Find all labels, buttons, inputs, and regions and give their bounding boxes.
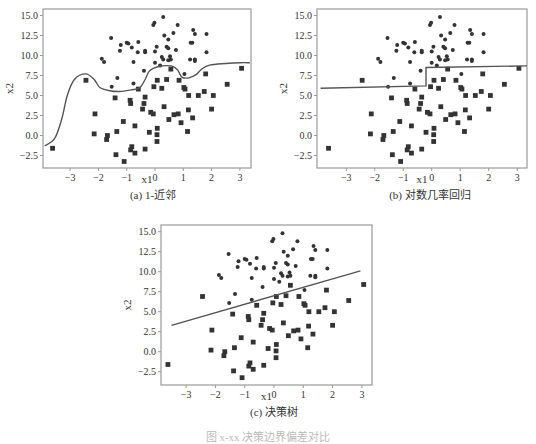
data-point-square: [114, 129, 119, 134]
y-tick-label: 2.5: [144, 326, 157, 337]
data-point-circle: [482, 32, 486, 36]
data-point-circle: [468, 28, 472, 32]
data-point-square: [389, 96, 394, 101]
y-tick-label: −2.5: [138, 366, 156, 377]
data-point-square: [166, 362, 171, 367]
data-point-circle: [143, 50, 147, 54]
data-point-square: [405, 101, 410, 106]
data-point-circle: [162, 34, 166, 38]
data-point-circle: [420, 50, 424, 54]
x-tick-label: 2: [486, 172, 491, 183]
data-point-square: [296, 328, 301, 333]
data-point-circle: [312, 244, 316, 248]
data-point-square: [368, 132, 373, 137]
data-point-square: [155, 78, 160, 83]
data-point-square: [93, 112, 98, 117]
data-point-circle: [394, 49, 398, 53]
data-point-square: [266, 346, 271, 351]
x-tick-label: −2: [210, 389, 221, 400]
y-axis-label: x2: [121, 300, 133, 311]
data-point-square: [486, 107, 491, 112]
data-point-square: [209, 348, 214, 353]
data-point-circle: [311, 257, 315, 261]
data-point-square: [412, 87, 417, 92]
x-tick-label: −3: [341, 172, 352, 183]
y-tick-label: 5.0: [144, 306, 157, 317]
y-tick-label: 12.5: [295, 30, 313, 41]
data-point-circle: [115, 76, 119, 80]
x-tick-label: −3: [65, 172, 76, 183]
caption-b: (b) 对数几率回归: [389, 186, 471, 202]
x-tick-label: −1: [121, 172, 132, 183]
data-point-square: [176, 112, 181, 117]
data-point-square: [424, 130, 429, 135]
data-point-square: [390, 152, 395, 157]
data-point-square: [186, 93, 191, 98]
data-point-square: [246, 364, 251, 369]
data-point-circle: [465, 58, 469, 62]
data-point-circle: [152, 21, 156, 25]
data-point-circle: [438, 15, 442, 19]
data-point-circle: [153, 61, 157, 65]
data-point-square: [409, 151, 414, 156]
data-point-circle: [295, 239, 299, 243]
data-point-square: [164, 77, 169, 82]
data-point-square: [306, 309, 311, 314]
data-point-circle: [155, 45, 159, 49]
data-point-square: [128, 148, 133, 153]
x-tick-label: 0: [153, 172, 158, 183]
data-point-circle: [119, 43, 123, 47]
data-point-square: [230, 312, 235, 317]
data-point-square: [281, 321, 286, 326]
y-tick-label: 0.0: [300, 130, 313, 141]
data-point-circle: [451, 48, 455, 52]
data-point-circle: [308, 274, 312, 278]
data-point-square: [409, 124, 414, 129]
data-point-circle: [431, 45, 435, 49]
plot-frame: [43, 9, 251, 168]
data-point-square: [122, 159, 127, 164]
y-tick-label: 15.0: [295, 10, 313, 21]
data-point-square: [232, 345, 237, 350]
y-tick-label: −2.5: [20, 150, 38, 161]
data-point-square: [436, 86, 441, 91]
x-tick-label: 0: [429, 172, 434, 183]
data-point-square: [200, 294, 205, 299]
data-point-square: [441, 77, 446, 82]
data-point-square: [369, 112, 374, 117]
data-point-circle: [406, 46, 410, 50]
y-tick-label: 7.5: [144, 286, 157, 297]
y-tick-label: 15.0: [139, 226, 157, 237]
data-point-square: [360, 78, 365, 83]
chart-panel-1nn: −3−2−1012315.012.510.07.55.02.50.0−2.5x1…: [3, 9, 251, 185]
data-point-circle: [166, 38, 170, 42]
data-point-circle: [302, 288, 306, 292]
data-point-square: [479, 89, 484, 94]
data-point-square: [177, 78, 182, 83]
data-point-circle: [233, 292, 237, 296]
data-point-circle: [280, 274, 284, 278]
data-point-circle: [193, 32, 197, 36]
data-point-circle: [176, 23, 180, 27]
data-point-circle: [219, 276, 223, 280]
data-point-circle: [419, 69, 423, 73]
data-point-square: [113, 96, 118, 101]
data-point-circle: [205, 50, 209, 54]
data-point-square: [183, 87, 188, 92]
data-point-circle: [277, 280, 281, 284]
data-point-circle: [282, 250, 286, 254]
data-point-square: [196, 93, 201, 98]
data-point-circle: [166, 46, 170, 50]
decision-boundary-line: [321, 66, 528, 88]
data-point-square: [431, 139, 436, 144]
x-tick-label: −1: [239, 389, 250, 400]
data-point-circle: [262, 267, 266, 271]
data-point-square: [391, 129, 396, 134]
data-point-circle: [430, 50, 434, 54]
data-point-circle: [467, 41, 471, 45]
data-point-square: [330, 323, 335, 328]
data-point-square: [463, 93, 468, 98]
data-point-square: [463, 108, 468, 113]
data-point-square: [251, 340, 256, 345]
